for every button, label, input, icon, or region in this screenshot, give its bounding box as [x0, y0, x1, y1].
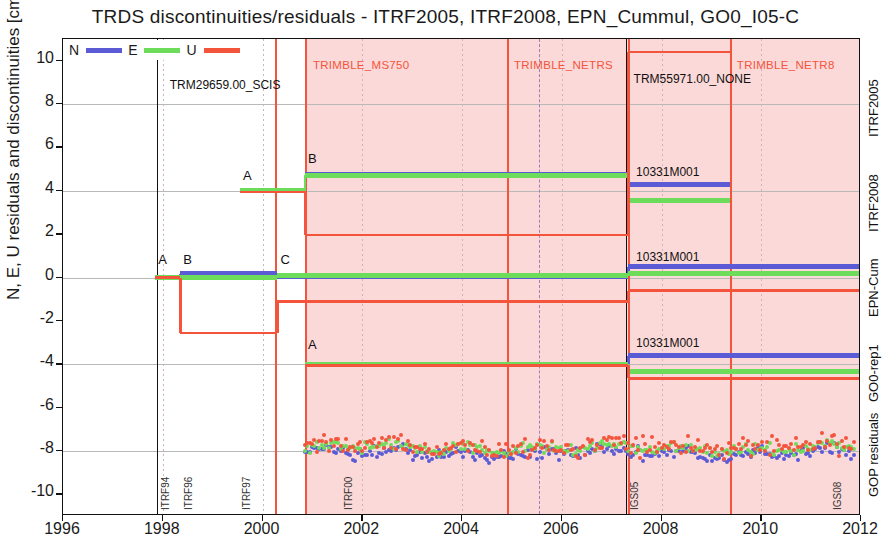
y-tick-label: 4 [8, 179, 54, 197]
scatter-point [583, 453, 587, 457]
scatter-point [792, 453, 796, 457]
y-tick-label: 8 [8, 92, 54, 110]
scatter-point [528, 453, 532, 457]
y-tick-label: 10 [8, 49, 54, 67]
series-step-riser [179, 278, 182, 333]
scatter-point [497, 442, 501, 446]
scatter-point [725, 451, 729, 455]
scatter-point [370, 453, 374, 457]
scatter-point [404, 448, 408, 452]
scatter-point [502, 455, 506, 459]
scatter-point [348, 453, 352, 457]
scatter-point [849, 457, 853, 461]
scatter-point [375, 445, 379, 449]
scatter-point [602, 450, 606, 454]
scatter-point [509, 452, 513, 456]
receiver-label: TRIMBLE_MS750 [313, 59, 410, 71]
scatter-point [835, 442, 839, 446]
scatter-point [820, 431, 824, 435]
antenna-label: TRM29659.00_SCIS [170, 78, 281, 92]
y-tick-label: -10 [8, 482, 54, 500]
scatter-point [775, 438, 779, 442]
scatter-point [411, 458, 415, 462]
scatter-point [459, 447, 463, 451]
y-tick-label: -4 [8, 352, 54, 370]
scatter-point [744, 443, 748, 447]
legend-swatch-n [86, 48, 122, 53]
scatter-point [339, 444, 343, 448]
scatter-point [519, 442, 523, 446]
scatter-point [557, 458, 561, 462]
legend-label-n: N [69, 42, 79, 58]
x-tick-mark [561, 515, 562, 521]
scatter-point [665, 453, 669, 457]
x-tick-mark [760, 515, 761, 521]
scatter-point [806, 448, 810, 452]
scatter-point [487, 461, 491, 465]
right-axis-label: ITRF2005 [866, 79, 881, 137]
scatter-point [622, 434, 626, 438]
scatter-point [538, 450, 542, 454]
scatter-point [705, 459, 709, 463]
scatter-point [737, 442, 741, 446]
scatter-point [365, 453, 369, 457]
scatter-point [638, 456, 642, 460]
scatter-point [526, 456, 530, 460]
x-tick-label: 2004 [426, 520, 496, 538]
series-step-riser [627, 52, 630, 235]
scatter-point [804, 440, 808, 444]
series-segment [305, 364, 628, 367]
series-segment [180, 332, 277, 335]
scatter-point [547, 452, 551, 456]
series-segment [628, 198, 730, 203]
scatter-point [411, 450, 415, 454]
scatter-point [423, 442, 427, 446]
scatter-point [593, 448, 597, 452]
scatter-point [480, 439, 484, 443]
step-marker: A [308, 337, 317, 352]
legend-label-e: E [128, 42, 137, 58]
series-segment [305, 234, 628, 237]
scatter-point [792, 448, 796, 452]
right-axis-label: GOP residuals [866, 413, 881, 497]
scatter-point [686, 434, 690, 438]
scatter-point [653, 445, 657, 449]
scatter-point [380, 452, 384, 456]
scatter-point [840, 439, 844, 443]
scatter-point [523, 437, 527, 441]
scatter-point [679, 451, 683, 455]
scatter-point [499, 448, 503, 452]
x-tick-mark [62, 515, 63, 521]
scatter-point [715, 444, 719, 448]
series-step-riser [304, 192, 307, 235]
scatter-point [634, 436, 638, 440]
x-tick-mark [361, 515, 362, 521]
series-segment [277, 273, 628, 278]
series-segment [628, 353, 860, 358]
scatter-point [435, 445, 439, 449]
series-segment [628, 289, 860, 292]
x-tick-mark [461, 515, 462, 521]
scatter-point [430, 457, 434, 461]
series-segment [305, 173, 628, 178]
series-segment [628, 377, 860, 380]
scatter-point [696, 438, 700, 442]
y-tick-label: 0 [8, 266, 54, 284]
scatter-point [842, 445, 846, 449]
receiver-label: TRIMBLE_NETRS [514, 59, 613, 71]
antenna-label: TRM55971.00_NONE [634, 72, 751, 86]
series-segment [180, 275, 277, 280]
scatter-point [710, 454, 714, 458]
scatter-point [600, 446, 604, 450]
scatter-point [617, 436, 621, 440]
scatter-point [763, 449, 767, 453]
scatter-point [303, 449, 307, 453]
scatter-point [691, 449, 695, 453]
y-tick-label: -6 [8, 396, 54, 414]
scatter-point [571, 447, 575, 451]
scatter-point [796, 458, 800, 462]
scatter-point [684, 450, 688, 454]
series-segment [628, 264, 860, 269]
scatter-point [353, 459, 357, 463]
scatter-point [612, 452, 616, 456]
